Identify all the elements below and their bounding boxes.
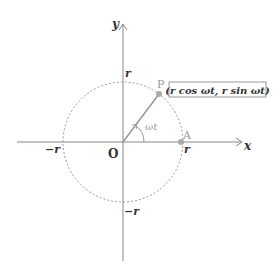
tick-x-pos: r — [184, 143, 191, 156]
point-p-label: P — [157, 78, 165, 91]
tick-y-pos: r — [125, 67, 132, 80]
angle-label: ωt — [145, 121, 158, 132]
radius-line — [123, 94, 159, 142]
circular-motion-diagram: y x O r −r r −r P A ωt (r cos ωt, r sin … — [0, 0, 280, 277]
y-axis-label: y — [111, 17, 120, 31]
point-p — [156, 91, 162, 97]
origin-label: O — [108, 147, 118, 161]
x-axis-label: x — [243, 139, 252, 153]
coords-label: (r cos ωt, r sin ωt) — [165, 85, 270, 97]
diagram-canvas: y x O r −r r −r P A ωt (r cos ωt, r sin … — [0, 0, 280, 277]
tick-y-neg: −r — [124, 205, 140, 218]
point-a-label: A — [182, 129, 192, 142]
tick-x-neg: −r — [45, 143, 61, 156]
coords-box: (r cos ωt, r sin ωt) — [165, 82, 270, 97]
